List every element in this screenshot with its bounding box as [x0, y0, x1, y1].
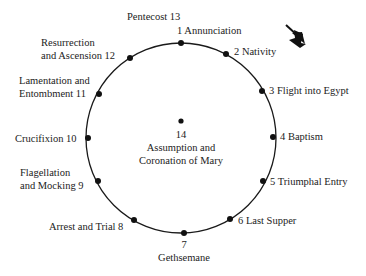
label-arrest-and-trial: Arrest and Trial 8: [49, 220, 123, 233]
node-dot-12: [127, 55, 133, 61]
label-flagellation-line2: and Mocking 9: [20, 179, 84, 192]
node-dot-8: [131, 217, 137, 223]
node-dot-4: [270, 134, 276, 140]
label-baptism: 4 Baptism: [280, 130, 323, 143]
label-pentecost: Pentecost 13: [127, 10, 180, 23]
label-center-assumption: 14 Assumption and Coronation of Mary: [121, 128, 241, 167]
label-gethsemane-name: Gethsemane: [154, 251, 214, 264]
label-gethsemane: 7 Gethsemane: [154, 238, 214, 264]
label-gethsemane-number: 7: [154, 238, 214, 251]
node-dot-2: [223, 51, 229, 57]
clockwise-arrow-icon: [286, 25, 306, 48]
label-resurrection: Resurrection and Ascension 12: [41, 36, 115, 62]
label-flagellation: Flagellation and Mocking 9: [20, 166, 84, 192]
label-last-supper: 6 Last Supper: [238, 214, 296, 227]
node-dot-5: [260, 178, 266, 184]
label-lamentation-line1: Lamentation and: [19, 74, 90, 87]
node-dot-6: [227, 216, 233, 222]
label-resurrection-line2: and Ascension 12: [41, 49, 115, 62]
node-dot-14-center: [178, 118, 183, 123]
node-dot-10: [85, 135, 91, 141]
node-dot-3: [259, 88, 265, 94]
label-center-line1: Assumption and: [121, 141, 241, 154]
label-triumphal-entry: 5 Triumphal Entry: [270, 175, 348, 188]
life-cycle-diagram: Pentecost 13 1 Annunciation 2 Nativity 3…: [0, 0, 366, 276]
label-flight-into-egypt: 3 Flight into Egypt: [269, 84, 349, 97]
label-resurrection-line1: Resurrection: [41, 36, 115, 49]
node-dot-9: [95, 178, 101, 184]
label-lamentation: Lamentation and Entombment 11: [19, 74, 90, 100]
node-dot-11: [96, 91, 102, 97]
label-center-number: 14: [121, 128, 241, 141]
label-center-line2: Coronation of Mary: [121, 154, 241, 167]
label-lamentation-line2: Entombment 11: [19, 87, 90, 100]
node-dot-7: [181, 230, 187, 236]
label-annunciation: 1 Annunciation: [177, 24, 241, 37]
node-dot-1: [178, 40, 184, 46]
label-crucifixion: Crucifixion 10: [15, 132, 77, 145]
label-nativity: 2 Nativity: [234, 45, 276, 58]
label-flagellation-line1: Flagellation: [20, 166, 84, 179]
